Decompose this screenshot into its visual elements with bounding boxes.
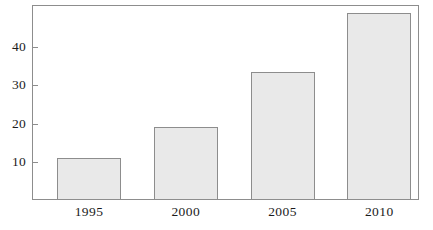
y-axis-tick-label: 10 — [12, 155, 26, 169]
bar — [57, 158, 121, 200]
y-axis-tick-label: 40 — [12, 40, 26, 54]
bar — [154, 127, 218, 200]
y-axis-tick-label-wrap: 20 — [0, 117, 26, 131]
plot-area — [32, 5, 419, 200]
x-axis-tick-label: 2005 — [233, 205, 333, 219]
x-axis-tick-label: 2010 — [329, 205, 429, 219]
x-axis-tick-label: 1995 — [39, 205, 139, 219]
y-axis-tick-label: 20 — [12, 117, 26, 131]
x-axis-tick-label: 2000 — [136, 205, 236, 219]
bar — [347, 13, 411, 200]
y-axis-tick-label-wrap: 30 — [0, 78, 26, 92]
bar-chart: 10203040 1995200020052010 — [0, 0, 433, 230]
y-axis-tick-label-wrap: 10 — [0, 155, 26, 169]
bar — [251, 72, 315, 200]
y-axis-tick-label-wrap: 40 — [0, 40, 26, 54]
y-axis-tick-label: 30 — [12, 78, 26, 92]
